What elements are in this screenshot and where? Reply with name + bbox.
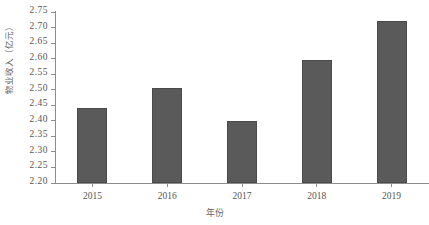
- x-tick-mark: [391, 183, 392, 187]
- y-tick-label: 2.75: [29, 5, 48, 15]
- y-tick-label: 2.30: [29, 145, 48, 155]
- bar: [302, 60, 332, 183]
- x-tick-label: 2016: [137, 191, 197, 201]
- y-tick-label: 2.65: [29, 36, 48, 46]
- x-tick-mark: [316, 183, 317, 187]
- y-tick-label: 2.55: [29, 67, 48, 77]
- bar: [77, 108, 107, 183]
- y-tick-label: 2.20: [29, 176, 48, 186]
- x-tick-label: 2019: [362, 191, 422, 201]
- x-tick-label: 2015: [62, 191, 122, 201]
- x-tick-label: 2018: [287, 191, 347, 201]
- y-tick-label: 2.45: [29, 98, 48, 108]
- y-tick-label: 2.60: [29, 52, 48, 62]
- bar: [227, 121, 257, 183]
- bar-chart: 2.752.702.652.602.552.502.452.402.352.30…: [0, 0, 429, 225]
- y-tick-label: 2.40: [29, 114, 48, 124]
- y-axis-title: 物业收入（亿元）: [2, 0, 14, 118]
- x-axis-title: 年份: [0, 206, 429, 219]
- x-tick-label: 2017: [212, 191, 272, 201]
- y-tick-label: 2.50: [29, 83, 48, 93]
- x-tick-mark: [242, 183, 243, 187]
- bar: [377, 21, 407, 183]
- x-tick-mark: [92, 183, 93, 187]
- y-tick-label: 2.25: [29, 160, 48, 170]
- y-tick-label: 2.35: [29, 129, 48, 139]
- x-tick-mark: [167, 183, 168, 187]
- y-tick-label: 2.70: [29, 21, 48, 31]
- plot-area: [55, 12, 429, 183]
- bar: [152, 88, 182, 183]
